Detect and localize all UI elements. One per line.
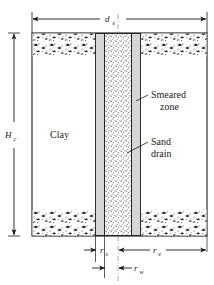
dimension-de-subscript: e xyxy=(113,20,116,26)
smeared-zone-label-line1: Smeared xyxy=(151,89,186,100)
sand-drain-label-line1: Sand xyxy=(151,136,171,147)
dimension-de-symbol: d xyxy=(105,14,110,24)
dimension-rs-symbol: r xyxy=(100,245,104,255)
sand-drain-core xyxy=(105,34,132,236)
dimension-re-symbol: r xyxy=(153,245,157,255)
sand-drain-label-line2: drain xyxy=(151,148,172,159)
clay-label: Clay xyxy=(50,129,69,140)
dimension-re-subscript: e xyxy=(159,251,162,257)
dimension-re: r e xyxy=(119,236,207,257)
dimension-rs: r s xyxy=(84,236,117,262)
figure-sand-drain: d e H c Clay Smeared zone Sand drain r s… xyxy=(0,0,214,285)
dimension-rw-symbol: r xyxy=(134,263,138,273)
dimension-hc-symbol: H xyxy=(4,130,12,140)
dimension-de: d e xyxy=(32,12,207,33)
smeared-zone-label-line2: zone xyxy=(160,101,179,112)
dimension-hc: H c xyxy=(4,33,20,236)
dimension-rs-subscript: s xyxy=(106,251,109,257)
dimension-rw-subscript: w xyxy=(140,269,144,275)
dimension-hc-subscript: c xyxy=(14,136,17,142)
